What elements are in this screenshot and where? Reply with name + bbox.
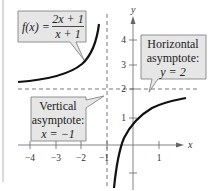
y-tick-label: 4 <box>121 35 126 45</box>
x-tick-label: 1 <box>157 153 162 163</box>
right-branch-curve <box>114 98 186 188</box>
h-callout-line2: asymptote: <box>147 51 200 65</box>
horizontal-asymptote-callout: Horizontal asymptote: y = 2 <box>141 35 206 92</box>
x-tick-label: −1 <box>99 153 109 163</box>
function-label-numerator: 2x + 1 <box>52 12 83 26</box>
x-axis-label: x <box>187 139 193 150</box>
function-label-prefix: f(x) = <box>22 20 50 34</box>
function-label-denominator: x + 1 <box>54 27 80 41</box>
y-tick-label: 2 <box>121 84 126 94</box>
vertical-asymptote-callout: Vertical asymptote: x = −1 <box>31 96 104 141</box>
v-callout-line3: x = −1 <box>40 127 75 141</box>
x-tick-label: −3 <box>51 153 61 163</box>
v-callout-line2: asymptote: <box>32 113 85 127</box>
x-axis-arrow-icon <box>176 143 184 148</box>
h-callout-line1: Horizontal <box>147 37 199 51</box>
v-callout-line1: Vertical <box>39 99 77 113</box>
function-label-box: f(x) = 2x + 1 x + 1 <box>18 11 86 60</box>
x-tick-label: −4 <box>25 153 35 163</box>
y-axis-arrow-icon <box>131 16 136 24</box>
y-axis-label: y <box>130 4 136 15</box>
y-tick-label: 3 <box>121 60 126 70</box>
y-tick-label: 1 <box>121 113 126 123</box>
rational-function-graph: −4 −3 −2 −1 1 4 3 2 1 x y f(x) = 2x + 1 … <box>0 0 212 191</box>
x-tick-label: −2 <box>76 153 86 163</box>
chart-frame: −4 −3 −2 −1 1 4 3 2 1 x y f(x) = 2x + 1 … <box>0 0 212 191</box>
h-callout-line3: y = 2 <box>159 65 185 79</box>
